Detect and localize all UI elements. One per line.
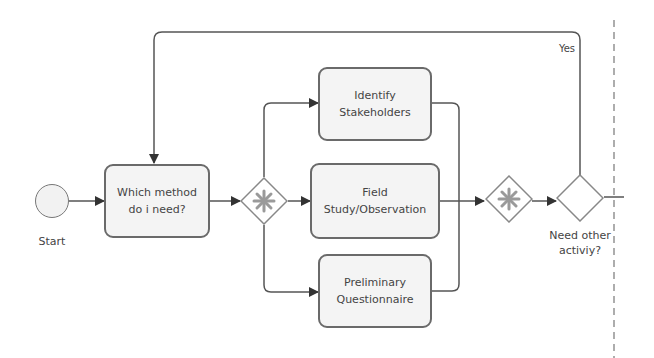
task-field-line2: Study/Observation xyxy=(324,201,426,218)
start-label: Start xyxy=(30,234,74,249)
edge-split-to-questionnaire xyxy=(264,225,318,292)
task-identify-line1: Identify xyxy=(339,87,411,104)
decision-label-line2: activiy? xyxy=(540,243,620,258)
decision-label-line1: Need other xyxy=(540,228,620,243)
task-which-method-line1: Which method xyxy=(117,184,197,201)
asterisk-icon xyxy=(254,191,274,211)
split-gateway[interactable] xyxy=(240,177,288,225)
edge-split-to-identify xyxy=(264,103,318,177)
task-questionnaire-line1: Preliminary xyxy=(336,274,413,291)
task-identify-stakeholders[interactable]: Identify Stakeholders xyxy=(318,67,432,141)
task-preliminary-questionnaire[interactable]: Preliminary Questionnaire xyxy=(318,254,432,328)
task-which-method[interactable]: Which method do i need? xyxy=(104,164,210,238)
task-field-study[interactable]: Field Study/Observation xyxy=(310,163,440,239)
task-identify-line2: Stakeholders xyxy=(339,104,411,121)
decision-gateway[interactable] xyxy=(556,174,604,222)
task-questionnaire-line2: Questionnaire xyxy=(336,291,413,308)
start-event[interactable] xyxy=(35,184,69,218)
decision-label: Need other activiy? xyxy=(540,228,620,258)
task-field-line1: Field xyxy=(324,184,426,201)
task-which-method-line2: do i need? xyxy=(117,201,197,218)
asterisk-icon xyxy=(499,189,519,209)
yes-edge-label: Yes xyxy=(556,41,578,56)
join-gateway[interactable] xyxy=(485,175,533,223)
